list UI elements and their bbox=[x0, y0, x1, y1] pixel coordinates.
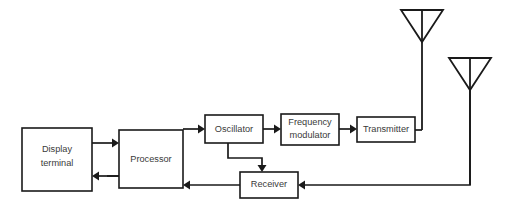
connection-receiver-to-processor bbox=[183, 181, 240, 190]
arrow-head-icon bbox=[112, 139, 119, 148]
block-label-frequency-modulator-line1: Frequency bbox=[288, 117, 332, 127]
block-frequency-modulator[interactable]: Frequency modulator bbox=[281, 114, 339, 145]
block-oscillator[interactable]: Oscillator bbox=[205, 115, 263, 143]
arrow-head-icon bbox=[298, 181, 305, 190]
connection-oscillator-to-receiver bbox=[228, 143, 267, 172]
block-processor[interactable]: Processor bbox=[119, 130, 183, 188]
connection-modulator-to-transmitter bbox=[339, 125, 357, 134]
block-label-oscillator: Oscillator bbox=[215, 124, 253, 134]
transmit-antenna-icon bbox=[401, 10, 443, 130]
arrow-head-icon bbox=[198, 125, 205, 134]
block-transmitter[interactable]: Transmitter bbox=[357, 117, 415, 142]
block-label-display-terminal-line2: terminal bbox=[41, 158, 74, 168]
arrow-head-icon bbox=[92, 172, 99, 181]
receive-antenna-icon bbox=[449, 58, 491, 185]
block-label-transmitter: Transmitter bbox=[363, 124, 409, 134]
arrow-head-icon bbox=[183, 181, 190, 190]
block-diagram-canvas: Display terminal Processor Oscillator Fr… bbox=[0, 0, 512, 211]
arrow-head-icon bbox=[258, 165, 267, 172]
block-display-terminal[interactable]: Display terminal bbox=[22, 128, 92, 191]
connection-display-to-processor bbox=[92, 139, 119, 148]
antenna-layer bbox=[401, 10, 491, 185]
block-label-processor: Processor bbox=[130, 154, 171, 164]
block-receiver[interactable]: Receiver bbox=[240, 172, 298, 198]
diagram-svg: Display terminal Processor Oscillator Fr… bbox=[0, 0, 512, 211]
block-label-display-terminal-line1: Display bbox=[42, 144, 73, 154]
connection-oscillator-to-modulator bbox=[263, 125, 281, 134]
block-label-receiver: Receiver bbox=[251, 179, 287, 189]
block-label-frequency-modulator-line2: modulator bbox=[290, 130, 331, 140]
connection-processor-to-oscillator bbox=[183, 125, 205, 134]
arrow-head-icon bbox=[350, 125, 357, 134]
arrow-head-icon bbox=[274, 125, 281, 134]
